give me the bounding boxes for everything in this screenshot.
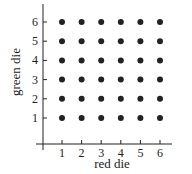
data-point xyxy=(98,77,104,83)
data-point xyxy=(157,19,163,25)
y-tick-label: 6 xyxy=(32,15,38,29)
data-point xyxy=(98,38,104,44)
data-point xyxy=(157,115,163,121)
data-point xyxy=(137,19,143,25)
data-point xyxy=(59,19,65,25)
data-point xyxy=(98,96,104,102)
data-point xyxy=(98,19,104,25)
x-axis-label: red die xyxy=(94,156,130,171)
data-point xyxy=(79,96,85,102)
data-point xyxy=(118,38,124,44)
y-axis-label: green die xyxy=(8,48,23,96)
data-point xyxy=(59,96,65,102)
data-point xyxy=(137,57,143,63)
data-point xyxy=(59,115,65,121)
x-tick-label: 5 xyxy=(137,146,143,160)
data-point xyxy=(118,19,124,25)
y-tick-label: 5 xyxy=(32,34,38,48)
x-tick-label: 2 xyxy=(79,146,85,160)
x-tick-label: 1 xyxy=(59,146,65,160)
x-tick-label: 6 xyxy=(157,146,163,160)
data-point xyxy=(137,38,143,44)
y-tick-label: 4 xyxy=(32,53,38,67)
data-point xyxy=(79,38,85,44)
data-point xyxy=(79,77,85,83)
data-point xyxy=(118,96,124,102)
data-point xyxy=(137,77,143,83)
data-point xyxy=(59,38,65,44)
y-tick-label: 1 xyxy=(32,111,38,125)
data-points xyxy=(59,19,163,121)
data-point xyxy=(118,115,124,121)
data-point xyxy=(98,57,104,63)
y-tick-label: 2 xyxy=(32,92,38,106)
data-point xyxy=(137,96,143,102)
axes xyxy=(36,4,172,150)
data-point xyxy=(118,57,124,63)
data-point xyxy=(79,57,85,63)
data-point xyxy=(157,77,163,83)
dice-outcome-scatter-chart: 123456 123456 red die green die xyxy=(0,0,192,174)
data-point xyxy=(79,19,85,25)
data-point xyxy=(79,115,85,121)
data-point xyxy=(59,57,65,63)
data-point xyxy=(137,115,143,121)
data-point xyxy=(157,38,163,44)
data-point xyxy=(157,57,163,63)
data-point xyxy=(59,77,65,83)
y-tick-label: 3 xyxy=(32,73,38,87)
y-ticks: 123456 xyxy=(32,15,47,125)
data-point xyxy=(118,77,124,83)
data-point xyxy=(98,115,104,121)
data-point xyxy=(157,96,163,102)
